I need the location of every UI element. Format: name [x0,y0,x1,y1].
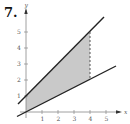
svg-text:4: 4 [17,44,21,51]
svg-text:3: 3 [17,60,21,67]
svg-text:2: 2 [57,115,61,122]
x-tick-labels: 1 2 3 4 5 [41,115,109,122]
svg-text:2: 2 [17,76,21,83]
y-axis-label: y [24,1,29,9]
x-axis-arrow-icon [116,110,122,113]
svg-text:4: 4 [89,115,93,122]
y-axis-arrow-icon [24,8,27,14]
svg-text:1: 1 [41,115,45,122]
shaded-region [26,32,90,112]
svg-text:1: 1 [17,92,21,99]
x-axis-label: x [124,108,128,115]
svg-text:3: 3 [73,115,77,122]
svg-text:5: 5 [17,28,21,35]
svg-text:5: 5 [105,115,109,122]
chart: 1 2 3 4 5 x 1 2 3 4 5 y [0,0,130,124]
y-tick-labels: 1 2 3 4 5 [17,28,21,99]
